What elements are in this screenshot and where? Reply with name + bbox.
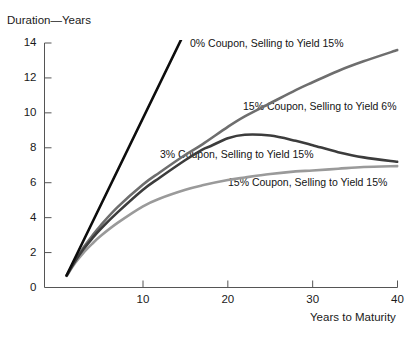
plot-area bbox=[0, 0, 418, 342]
duration-vs-maturity-chart: Duration—Years Years to Maturity 0246810… bbox=[0, 0, 418, 342]
series-line bbox=[67, 13, 194, 275]
axes-group bbox=[45, 43, 398, 288]
series-line bbox=[67, 134, 398, 275]
y-tick-marks bbox=[45, 43, 52, 253]
series-lines bbox=[67, 13, 398, 276]
series-line bbox=[67, 166, 398, 276]
x-tick-marks bbox=[143, 281, 398, 288]
series-line bbox=[67, 50, 398, 276]
